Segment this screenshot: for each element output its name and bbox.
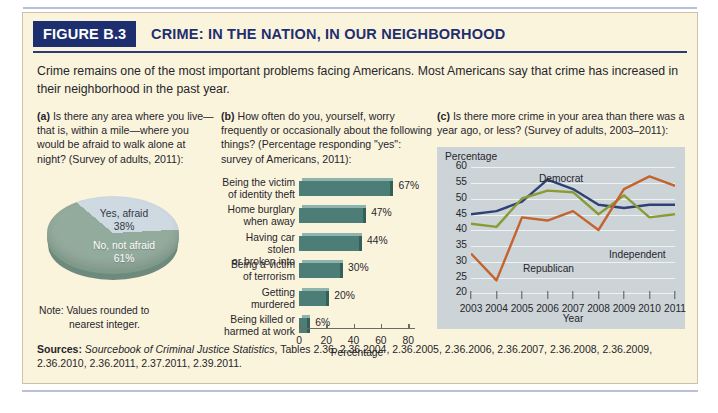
bar-value-label: 47% xyxy=(371,207,392,218)
panel-c-question-text: Is there more crime in your area than th… xyxy=(437,110,684,136)
bar-value-label: 44% xyxy=(367,235,388,246)
pie-slice-value-yes: 38% xyxy=(114,221,135,232)
line-chart-xlabel: Year xyxy=(471,313,675,324)
panel-c: (c) Is there more crime in your area tha… xyxy=(437,109,689,329)
panel-a-question: (a) Is there any area where you live—tha… xyxy=(37,109,217,166)
line-chart-plot-area: 202530354045505560DemocratIndependentRep… xyxy=(471,167,675,293)
bar-row: Having car stolenor broken into44% xyxy=(221,233,433,256)
panel-b: (b) How often do you, yourself, worry fr… xyxy=(221,109,433,348)
bar-chart-x-axis: 020406080 xyxy=(299,328,415,330)
bar-value-label: 67% xyxy=(398,180,419,191)
bar-row: Home burglarywhen away47% xyxy=(221,205,433,228)
x-axis-tick xyxy=(547,291,548,299)
panel-b-question-text: How often do you, yourself, worry freque… xyxy=(221,110,432,165)
line-series-democrat xyxy=(471,180,675,215)
series-annotation-democrat: Democrat xyxy=(539,173,583,184)
x-axis-tick xyxy=(649,291,650,299)
y-axis-tick-label: 30 xyxy=(447,255,467,266)
figure-header: FIGURE B.3 CRIME: IN THE NATION, IN OUR … xyxy=(33,21,687,51)
x-axis-tick xyxy=(572,291,573,299)
bar-row: Gettingmurdered20% xyxy=(221,288,433,311)
y-axis-tick-label: 40 xyxy=(447,223,467,234)
line-chart: Percentage 202530354045505560DemocratInd… xyxy=(437,147,685,329)
x-axis-tick xyxy=(521,291,522,299)
panel-a-label: (a) xyxy=(37,110,50,122)
panel-c-question: (c) Is there more crime in your area tha… xyxy=(437,109,689,137)
figure-header-rule xyxy=(33,51,687,53)
x-axis-tick xyxy=(470,291,471,299)
y-axis-tick-label: 55 xyxy=(447,176,467,187)
bar xyxy=(299,236,359,251)
bar-row: Being the victimof identity theft67% xyxy=(221,178,433,201)
figure-intro-text: Crime remains one of the most important … xyxy=(37,63,683,99)
y-axis-tick-label: 20 xyxy=(447,286,467,297)
bar-category-label: Home burglarywhen away xyxy=(221,204,295,228)
bar-category-label: Gettingmurdered xyxy=(221,287,295,311)
panel-a-note-line1: Note: Values rounded to xyxy=(39,305,149,316)
bar-value-label: 6% xyxy=(315,317,330,328)
pie-chart: Yes, afraid 38% No, not afraid 61% xyxy=(39,178,209,294)
sources-label: Sources: xyxy=(37,343,82,355)
figure-panels: (a) Is there any area where you live—tha… xyxy=(23,109,697,339)
y-axis-tick-label: 60 xyxy=(447,160,467,171)
pie-slice-label-yes: Yes, afraid 38% xyxy=(39,208,209,234)
bar-axis-tick xyxy=(354,324,356,329)
pie-slice-name-no: No, not afraid xyxy=(93,240,155,251)
panel-b-label: (b) xyxy=(221,110,235,122)
bar-category-label: Being the victimof identity theft xyxy=(221,177,295,201)
pie-slice-name-yes: Yes, afraid xyxy=(100,208,148,219)
line-series-group xyxy=(471,167,675,293)
bar-row: Being a victimof terrorism30% xyxy=(221,260,433,283)
pie-slice-value-no: 61% xyxy=(114,253,135,264)
y-axis-tick-label: 50 xyxy=(447,192,467,203)
panel-a: (a) Is there any area where you live—tha… xyxy=(37,109,217,332)
bar xyxy=(299,263,340,278)
pie-slice-label-no: No, not afraid 61% xyxy=(39,240,209,266)
bar-category-label: Being killed orharmed at work xyxy=(221,314,295,338)
series-annotation-republican: Republican xyxy=(523,263,574,274)
bar-axis-tick xyxy=(381,324,383,329)
figure-title: CRIME: IN THE NATION, IN OUR NEIGHBORHOO… xyxy=(151,21,505,47)
x-axis-tick xyxy=(623,291,624,299)
bar xyxy=(299,208,363,223)
panel-a-question-text: Is there any area where you live—that is… xyxy=(37,110,214,165)
panel-a-note: Note: Values rounded to nearest integer. xyxy=(39,304,217,332)
y-axis-tick-label: 25 xyxy=(447,271,467,282)
bar-chart: Being the victimof identity theft67%Home… xyxy=(221,178,433,348)
bar-axis-tick xyxy=(326,324,328,329)
sources-note: Sources: Sourcebook of Criminal Justice … xyxy=(37,342,683,371)
bar-axis-tick xyxy=(408,324,410,329)
x-axis-tick xyxy=(674,291,675,299)
figure-number-badge: FIGURE B.3 xyxy=(33,21,136,47)
bar-axis-tick xyxy=(299,324,301,329)
figure-panel: FIGURE B.3 CRIME: IN THE NATION, IN OUR … xyxy=(22,12,698,384)
y-axis-tick-label: 45 xyxy=(447,208,467,219)
bar-category-label: Being a victimof terrorism xyxy=(221,259,295,283)
figure-top-rule xyxy=(23,7,697,9)
bar-value-label: 30% xyxy=(348,262,369,273)
bar-value-label: 20% xyxy=(334,290,355,301)
sources-title: Sourcebook of Criminal Justice Statistic… xyxy=(85,343,275,355)
panel-c-label: (c) xyxy=(437,110,450,122)
page-bottom-rule xyxy=(22,390,698,392)
x-axis-tick xyxy=(598,291,599,299)
bar xyxy=(299,291,326,306)
panel-a-note-line2: nearest integer. xyxy=(69,318,217,332)
x-axis-tick xyxy=(496,291,497,299)
bar xyxy=(299,181,390,196)
series-annotation-independent: Independent xyxy=(609,249,666,260)
panel-b-question: (b) How often do you, yourself, worry fr… xyxy=(221,109,433,166)
y-axis-tick-label: 35 xyxy=(447,239,467,250)
